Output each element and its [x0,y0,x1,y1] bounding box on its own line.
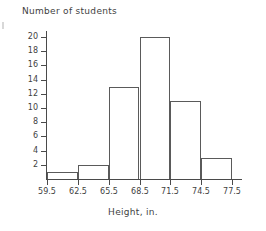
y-axis-tick-label: 2 [33,160,38,169]
histogram-figure: Number of students 2468101214161820 59.5… [0,0,266,231]
x-axis-tick-label: 62.5 [61,187,95,196]
y-axis-tick: 16 [41,65,47,66]
histogram-bar [109,87,140,179]
x-axis-line [46,179,242,180]
y-axis-tick-label: 8 [33,117,38,126]
y-axis-tick: 2 [41,165,47,166]
x-axis-tick-label: 71.5 [153,187,187,196]
y-axis-tick-label: 6 [33,131,38,140]
y-axis-tick: 12 [41,94,47,95]
x-axis-tick-label: 68.5 [123,187,157,196]
x-axis-tick-label: 59.5 [30,187,64,196]
x-axis-tick [232,180,233,185]
x-axis-caption: Height, in. [0,207,266,217]
x-axis-tick [47,180,48,185]
plot-area [47,32,232,179]
histogram-bar [47,172,78,179]
y-axis-tick-label: 20 [28,32,38,41]
y-axis-tick-label: 10 [28,103,38,112]
x-axis-tick-label: 65.5 [92,187,126,196]
y-axis-tick: 18 [41,51,47,52]
y-axis-tick: 14 [41,80,47,81]
y-axis-tick: 20 [41,37,47,38]
y-axis-tick-label: 14 [28,75,38,84]
histogram-bar [201,158,232,179]
y-axis-tick-label: 16 [28,60,38,69]
y-axis-tick-label: 12 [28,89,38,98]
y-axis-tick: 4 [41,151,47,152]
y-axis-tick: 10 [41,108,47,109]
x-axis-tick [140,180,141,185]
y-axis-tick: 8 [41,122,47,123]
x-axis-tick [201,180,202,185]
x-axis-tick-label: 74.5 [184,187,218,196]
y-axis-tick: 6 [41,136,47,137]
x-axis-tick-label: 77.5 [215,187,249,196]
y-axis-tick-label: 18 [28,46,38,55]
x-axis-tick [78,180,79,185]
page-edge-artifact [2,22,4,29]
histogram-bar [140,37,171,179]
x-axis-tick [170,180,171,185]
x-axis-tick [109,180,110,185]
histogram-bar [78,165,109,179]
y-axis-tick-label: 4 [33,146,38,155]
y-axis-caption: Number of students [22,6,117,16]
histogram-bar [170,101,201,179]
